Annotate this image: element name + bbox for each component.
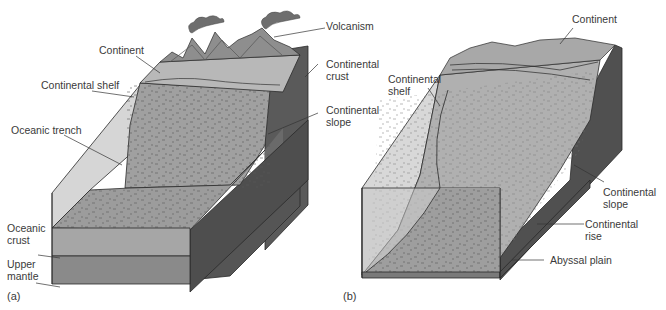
upper-mantle-layer: [52, 256, 190, 284]
label-continent-a: Continent: [99, 44, 144, 56]
label-continental-crust-a: Continental crust: [326, 58, 379, 82]
label-volcanism: Volcanism: [326, 20, 374, 32]
label-oceanic-trench: Oceanic trench: [11, 124, 82, 136]
volcano-smoke-icon: [189, 11, 300, 33]
oceanic-crust-layer: [52, 228, 190, 256]
label-continental-shelf-a: Continental shelf: [41, 79, 119, 91]
label-continental-slope-b: Continental slope: [603, 186, 656, 210]
label-continental-shelf-b: Continental shelf: [388, 73, 441, 97]
panel-b-tag: (b): [343, 290, 356, 302]
panel-a-tag: (a): [7, 290, 20, 302]
label-continental-rise: Continental rise: [585, 218, 638, 242]
abyssal-plain-base: [362, 272, 500, 278]
label-oceanic-crust: Oceanic crust: [7, 222, 46, 246]
label-continental-slope-a: Continental slope: [326, 104, 379, 128]
label-abyssal-plain: Abyssal plain: [550, 254, 612, 266]
label-continent-b: Continent: [572, 13, 617, 25]
label-upper-mantle: Upper mantle: [7, 258, 39, 282]
